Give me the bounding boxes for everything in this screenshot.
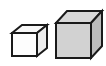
- small-cube-front-face: [12, 33, 37, 56]
- large-cube-front-face: [56, 23, 91, 58]
- small-cube: [12, 25, 47, 56]
- large-cube: [56, 11, 102, 58]
- figure-container: Line drawing of two cubes of different s…: [0, 0, 106, 66]
- two-cubes-illustration: [0, 0, 106, 66]
